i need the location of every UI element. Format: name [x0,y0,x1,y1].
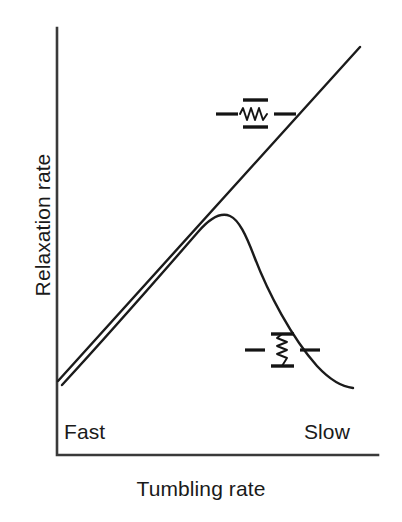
slow-tumbling-molecule-icon [245,334,320,366]
y-axis-title: Relaxation rate [31,125,55,325]
x-axis-left-endpoint-label: Fast [64,420,105,444]
axis-frame [57,28,378,455]
upper-icon-spring [240,108,267,120]
x-axis-right-endpoint-label: Slow [304,420,350,444]
fast-tumbling-molecule-icon [216,100,296,127]
curve-r2-straight-line [58,47,360,381]
curve-r1-peaked [62,215,353,388]
lower-icon-spring [277,334,287,366]
x-axis-title: Tumbling rate [0,477,402,501]
relaxation-rate-figure: Fast Slow Tumbling rate Relaxation rate [0,0,402,522]
